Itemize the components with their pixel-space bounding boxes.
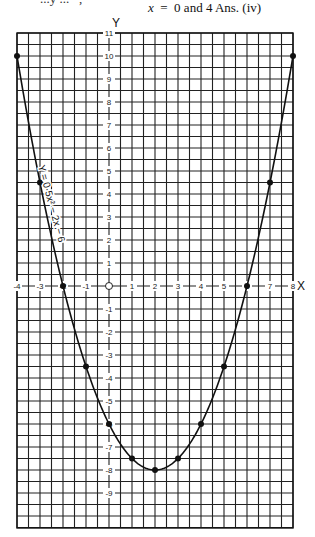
y-tick-label: -2 [105,328,113,337]
parabola-graph: -4-3-2-1123456781110987654321-1-2-3-4-5-… [0,0,315,537]
data-point [14,53,20,59]
data-point [267,180,273,186]
y-tick-label: 4 [107,190,112,199]
data-point [129,456,135,462]
x-tick-label: 3 [176,282,181,291]
y-tick-label: -3 [105,351,113,360]
y-tick-label: 7 [107,121,112,130]
y-tick-label: 9 [107,75,112,84]
data-point [244,283,250,289]
data-point [175,456,181,462]
x-tick-label: 4 [199,282,204,291]
y-tick-label: 3 [107,213,112,222]
data-point [83,364,89,370]
x-tick-label: -1 [82,282,90,291]
y-tick-label: -5 [105,397,113,406]
y-tick-label: 6 [107,144,112,153]
y-tick-label: 2 [107,236,112,245]
x-tick-label: -3 [36,282,44,291]
x-tick-label: 5 [222,282,227,291]
y-axis-label: Y [112,16,120,30]
y-tick-label: 1 [107,259,112,268]
y-tick-label: 11 [105,29,114,38]
y-tick-label: 10 [105,52,114,61]
data-point [290,53,296,59]
y-tick-label: 5 [107,167,112,176]
y-tick-label: -7 [105,443,113,452]
x-axis-label: X [297,279,305,293]
y-tick-label: -8 [105,466,113,475]
x-tick-label: 7 [268,282,273,291]
data-point [221,364,227,370]
y-tick-label: -9 [105,489,113,498]
origin-marker [106,283,113,290]
data-point [106,421,112,427]
x-tick-label: 2 [153,282,158,291]
data-point [152,467,158,473]
x-tick-label: -4 [13,282,21,291]
y-tick-label: -4 [105,374,113,383]
x-tick-label: 8 [291,282,296,291]
x-tick-label: 1 [130,282,135,291]
data-point [60,283,66,289]
y-tick-label: -1 [105,305,113,314]
y-tick-label: 8 [107,98,112,107]
data-point [198,421,204,427]
